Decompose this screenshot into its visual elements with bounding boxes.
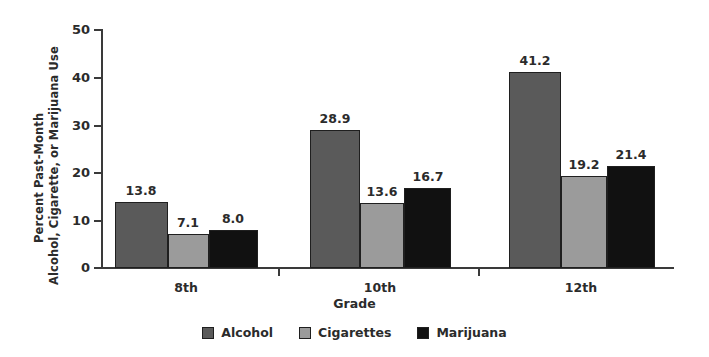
x-tick-label-8th: 8th [146,280,226,295]
legend-label-alcohol: Alcohol [221,325,273,340]
bar-12th-marijuana[interactable] [607,166,655,268]
legend-label-marijuana: Marijuana [436,325,506,340]
bar-10th-cigarettes[interactable] [360,203,404,268]
bar-label-10th-cigarettes: 13.6 [352,184,412,199]
bar-8th-marijuana[interactable] [209,230,258,268]
legend-item-marijuana[interactable]: Marijuana [417,325,506,340]
legend-swatch-cigarettes-icon [299,327,311,339]
x-tick-1 [278,269,280,276]
bar-8th-alcohol[interactable] [115,202,168,268]
legend-label-cigarettes: Cigarettes [318,325,391,340]
legend-swatch-marijuana-icon [417,327,429,339]
chart-legend: Alcohol Cigarettes Marijuana [0,325,709,340]
legend-swatch-alcohol-icon [202,327,214,339]
bar-chart-figure: Percent Past-Month Alcohol, Cigarette, o… [0,0,709,357]
legend-item-cigarettes[interactable]: Cigarettes [299,325,391,340]
bars-layer [0,0,709,268]
x-tick-2 [478,269,480,276]
bar-8th-cigarettes[interactable] [168,234,209,268]
bar-10th-alcohol[interactable] [310,130,360,268]
x-axis-title: Grade [0,296,709,311]
bar-label-8th-marijuana: 8.0 [203,211,263,226]
bar-label-10th-marijuana: 16.7 [398,169,458,184]
x-tick-label-12th: 12th [541,280,621,295]
legend-item-alcohol[interactable]: Alcohol [202,325,273,340]
bar-label-8th-alcohol: 13.8 [111,183,171,198]
bar-12th-cigarettes[interactable] [561,176,607,268]
bar-10th-marijuana[interactable] [404,188,451,268]
x-tick-label-10th: 10th [340,280,420,295]
bar-label-10th-alcohol: 28.9 [305,111,365,126]
bar-label-12th-alcohol: 41.2 [505,53,565,68]
bar-label-12th-marijuana: 21.4 [601,147,661,162]
